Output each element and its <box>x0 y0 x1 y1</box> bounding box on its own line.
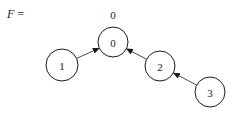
edges <box>77 48 197 85</box>
node-3: 3 <box>195 77 225 107</box>
node-label: 3 <box>207 87 213 99</box>
edge-2-to-0-arrow <box>126 49 146 59</box>
node-0: 0 <box>98 27 128 57</box>
node-label: 1 <box>59 60 65 72</box>
node-2: 2 <box>145 51 175 81</box>
node-label: 2 <box>157 61 163 73</box>
root-label: 0 <box>110 9 116 21</box>
node-label: 0 <box>110 37 116 49</box>
edge-1-to-0-arrow <box>77 48 100 58</box>
nodes: 0123 <box>46 27 225 107</box>
edge-3-to-2-arrow <box>173 73 196 85</box>
node-1: 1 <box>46 49 78 81</box>
forest-diagram: 0 0123 <box>0 0 236 115</box>
